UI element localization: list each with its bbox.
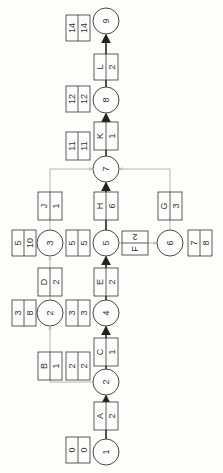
time-box-2a: 3 8 [12, 300, 36, 326]
svg-text:4: 4 [101, 310, 111, 315]
activity-H: H 6 [94, 192, 118, 220]
svg-text:C: C [95, 348, 105, 355]
activity-K: K 1 [94, 122, 118, 150]
svg-text:8: 8 [101, 97, 111, 102]
activity-D: D 2 [38, 268, 62, 296]
svg-text:8: 8 [201, 240, 211, 245]
svg-text:2: 2 [45, 310, 55, 315]
node-2-upper: 2 [37, 300, 63, 326]
svg-text:G: G [159, 202, 169, 209]
svg-text:3: 3 [171, 203, 181, 208]
svg-text:2: 2 [51, 279, 61, 284]
svg-text:H: H [95, 203, 105, 210]
svg-text:2: 2 [107, 279, 117, 284]
svg-text:1: 1 [51, 363, 61, 368]
svg-text:K: K [95, 133, 105, 139]
node-8: 8 [93, 87, 119, 113]
node-4: 4 [93, 300, 119, 326]
node-6: 6 [157, 230, 183, 256]
node-2-lower: 2 [93, 369, 119, 395]
svg-text:7: 7 [189, 240, 199, 245]
svg-text:6: 6 [107, 203, 117, 208]
svg-text:2: 2 [67, 363, 77, 368]
svg-text:3: 3 [45, 240, 55, 245]
time-box-9: 14 14 [66, 15, 90, 41]
time-box-6: 7 8 [188, 230, 212, 256]
time-box-8: 12 12 [66, 86, 90, 112]
node-9: 9 [93, 8, 119, 34]
svg-text:1: 1 [101, 449, 111, 454]
svg-text:12: 12 [79, 94, 89, 104]
svg-text:2: 2 [107, 64, 117, 69]
time-box-5: 5 5 [66, 230, 90, 256]
time-box-3: 5 10 [12, 230, 36, 256]
network-diagram: A 2 B 1 C 1 D 2 E 2 F 2 G 3 H 6 J 1 [0, 0, 223, 473]
svg-text:1: 1 [51, 203, 61, 208]
svg-text:2: 2 [79, 363, 89, 368]
activity-J: J 1 [38, 192, 62, 220]
activity-C: C 1 [94, 338, 118, 366]
svg-text:3: 3 [67, 310, 77, 315]
activity-E: E 2 [94, 268, 118, 296]
activity-B: B 1 [38, 352, 62, 380]
svg-text:0: 0 [67, 447, 77, 452]
svg-text:2: 2 [101, 379, 111, 384]
node-3: 3 [37, 230, 63, 256]
svg-text:7: 7 [101, 166, 111, 171]
svg-text:E: E [95, 279, 105, 285]
svg-text:2: 2 [107, 413, 117, 418]
svg-text:L: L [95, 64, 105, 69]
svg-text:12: 12 [67, 94, 77, 104]
svg-text:J: J [39, 204, 49, 209]
node-1: 1 [93, 439, 119, 465]
svg-text:8: 8 [25, 310, 35, 315]
svg-text:5: 5 [101, 240, 111, 245]
svg-text:B: B [39, 363, 49, 369]
svg-text:1: 1 [107, 133, 117, 138]
svg-text:10: 10 [25, 238, 35, 248]
activity-F: F 2 [122, 231, 148, 255]
svg-text:F: F [130, 246, 140, 252]
svg-text:9: 9 [101, 18, 111, 23]
svg-text:3: 3 [79, 310, 89, 315]
time-box-2b: 2 2 [66, 352, 90, 380]
activity-A: A 2 [94, 402, 118, 430]
svg-text:5: 5 [79, 240, 89, 245]
node-5: 5 [93, 230, 119, 256]
svg-text:14: 14 [67, 23, 77, 33]
svg-text:6: 6 [165, 240, 175, 245]
time-box-7: 11 11 [66, 132, 90, 160]
svg-text:11: 11 [67, 141, 77, 150]
activity-G: G 3 [158, 192, 182, 220]
time-box-1: 0 0 [66, 437, 90, 463]
time-box-4: 3 3 [66, 300, 90, 326]
svg-text:5: 5 [13, 240, 23, 245]
svg-text:2: 2 [132, 232, 137, 242]
svg-text:0: 0 [79, 447, 89, 452]
svg-text:5: 5 [67, 240, 77, 245]
node-7: 7 [93, 156, 119, 182]
svg-text:14: 14 [79, 23, 89, 33]
svg-text:D: D [39, 278, 49, 285]
svg-text:A: A [95, 413, 105, 419]
svg-text:1: 1 [107, 349, 117, 354]
svg-text:11: 11 [79, 141, 89, 150]
svg-text:3: 3 [13, 310, 23, 315]
activity-L: L 2 [94, 54, 118, 80]
